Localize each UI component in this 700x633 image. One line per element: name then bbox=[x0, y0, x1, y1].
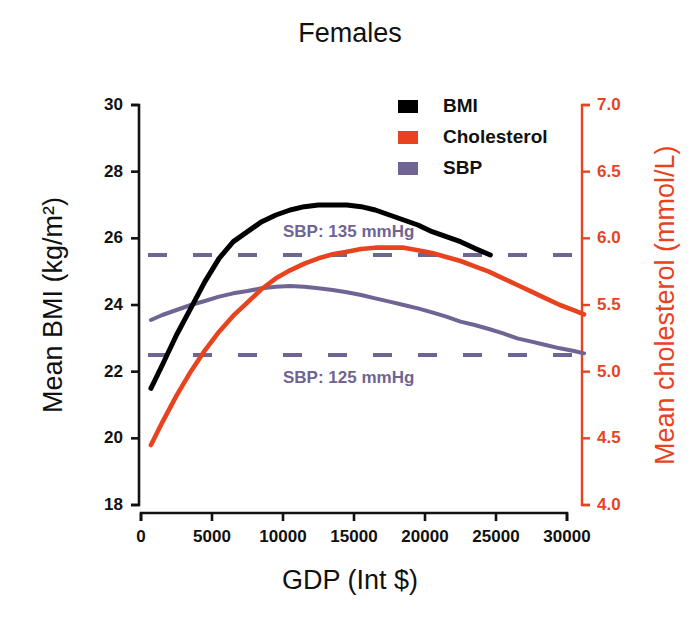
y-axis-right-tick-label: 4.5 bbox=[597, 428, 641, 448]
x-axis-tick-label: 20000 bbox=[385, 527, 465, 547]
y-axis-left-tick-label: 24 bbox=[83, 295, 123, 315]
y-axis-left-tick-label: 18 bbox=[83, 495, 123, 515]
reference-line-label: SBP: 125 mmHg bbox=[283, 368, 414, 388]
y-axis-left-tick-label: 26 bbox=[83, 228, 123, 248]
series-line-cholesterol bbox=[151, 248, 584, 445]
y-axis-right-tick-label: 6.5 bbox=[597, 162, 641, 182]
legend-swatch bbox=[398, 162, 418, 175]
x-axis-tick-label: 5000 bbox=[172, 527, 252, 547]
legend-label: SBP bbox=[443, 157, 482, 179]
reference-line-label: SBP: 135 mmHg bbox=[283, 222, 414, 242]
y-axis-left-tick-label: 30 bbox=[83, 95, 123, 115]
y-axis-right-tick-label: 6.0 bbox=[597, 228, 641, 248]
x-axis-tick-label: 25000 bbox=[456, 527, 536, 547]
legend-swatch bbox=[398, 131, 418, 144]
series-line-sbp bbox=[151, 286, 584, 353]
x-axis-tick-label: 15000 bbox=[314, 527, 394, 547]
x-axis-tick-label: 10000 bbox=[243, 527, 323, 547]
y-axis-left-tick-label: 20 bbox=[83, 428, 123, 448]
y-axis-left-tick-label: 28 bbox=[83, 162, 123, 182]
y-axis-right-tick-label: 4.0 bbox=[597, 495, 641, 515]
y-axis-right-tick-label: 7.0 bbox=[597, 95, 641, 115]
y-axis-right-tick-label: 5.0 bbox=[597, 362, 641, 382]
legend-label: Cholesterol bbox=[443, 126, 548, 148]
x-axis-tick-label: 30000 bbox=[527, 527, 607, 547]
y-axis-left-tick-label: 22 bbox=[83, 362, 123, 382]
legend-label: BMI bbox=[443, 95, 478, 117]
legend-swatch bbox=[398, 100, 418, 113]
chart-figure: Females Mean BMI (kg/m²) Mean cholestero… bbox=[0, 0, 700, 633]
x-axis-tick-label: 0 bbox=[101, 527, 181, 547]
y-axis-right-tick-label: 5.5 bbox=[597, 295, 641, 315]
